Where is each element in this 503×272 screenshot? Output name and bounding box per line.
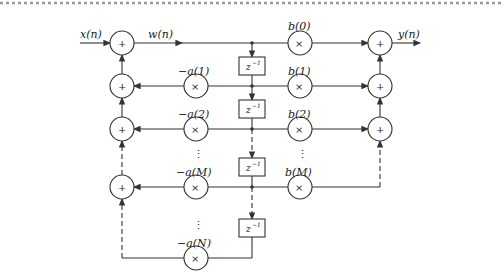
- coef-aN: −a(N): [177, 237, 211, 250]
- adder-symbol: +: [376, 81, 384, 92]
- coef-b1: b(1): [288, 65, 311, 78]
- coef-a2: −a(2): [178, 108, 209, 121]
- ellipsis: ⋮: [297, 148, 308, 161]
- coef-b0: b(0): [288, 20, 311, 33]
- coef-aM: −a(M): [176, 166, 212, 179]
- multiplier-symbol: ×: [295, 182, 303, 193]
- filter-diagram: x(n) w(n) y(n) + + + + + + + × × × × × ×…: [0, 0, 503, 272]
- ellipsis: ⋮: [193, 219, 204, 232]
- svg-text:z: z: [245, 163, 251, 173]
- coef-b2: b(2): [288, 108, 311, 121]
- svg-text:−1: −1: [252, 102, 261, 109]
- adder-symbol: +: [376, 124, 384, 135]
- adder-symbol: +: [118, 38, 126, 49]
- input-label: x(n): [80, 28, 102, 41]
- adder-symbol: +: [118, 124, 126, 135]
- coef-bM: b(M): [285, 166, 312, 179]
- multiplier-symbol: ×: [191, 253, 199, 264]
- output-label: y(n): [397, 28, 420, 41]
- multiplier-symbol: ×: [295, 38, 303, 49]
- diagram-canvas: x(n) w(n) y(n) + + + + + + + × × × × × ×…: [0, 0, 503, 272]
- svg-text:−1: −1: [252, 160, 261, 167]
- svg-text:−1: −1: [252, 59, 261, 66]
- multiplier-symbol: ×: [191, 81, 199, 92]
- adder-symbol: +: [118, 81, 126, 92]
- adder-symbol: +: [118, 182, 126, 193]
- multiplier-symbol: ×: [295, 124, 303, 135]
- svg-text:z: z: [245, 105, 251, 115]
- svg-text:z: z: [245, 62, 251, 72]
- multiplier-symbol: ×: [295, 81, 303, 92]
- svg-text:−1: −1: [252, 221, 261, 228]
- state-label: w(n): [148, 28, 173, 41]
- adder-symbol: +: [376, 38, 384, 49]
- ellipsis: ⋮: [193, 148, 204, 161]
- svg-text:z: z: [245, 224, 251, 234]
- multiplier-symbol: ×: [191, 124, 199, 135]
- multiplier-symbol: ×: [191, 182, 199, 193]
- coef-a1: −a(1): [178, 65, 209, 78]
